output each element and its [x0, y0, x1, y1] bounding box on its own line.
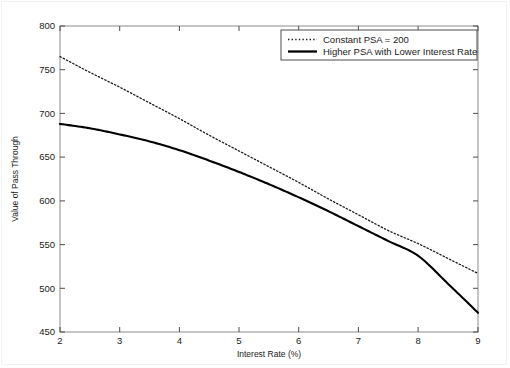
x-tick-label: 3 [117, 335, 122, 346]
y-tick-label: 500 [39, 283, 55, 294]
chart-figure: 450 500 550 600 650 700 750 800 2 3 4 5 … [0, 0, 510, 368]
legend-label-constant-psa: Constant PSA = 200 [323, 34, 409, 45]
chart-legend[interactable]: Constant PSA = 200 Higher PSA with Lower… [281, 30, 477, 60]
y-tick-label: 800 [39, 20, 55, 31]
y-axis-title: Value of Pass Through [10, 136, 20, 222]
x-tick-label: 6 [296, 335, 301, 346]
line-chart: 450 500 550 600 650 700 750 800 2 3 4 5 … [0, 0, 510, 368]
x-tick-label: 2 [57, 335, 62, 346]
y-tick-label: 450 [39, 326, 55, 337]
x-tick-label: 8 [415, 335, 420, 346]
y-tick-labels: 450 500 550 600 650 700 750 800 [39, 20, 55, 337]
y-tick-label: 550 [39, 239, 55, 250]
y-tick-label: 700 [39, 108, 55, 119]
y-tick-label: 600 [39, 195, 55, 206]
x-tick-labels: 2 3 4 5 6 7 8 9 [57, 335, 480, 346]
x-tick-label: 4 [177, 335, 182, 346]
x-tick-label: 7 [356, 335, 361, 346]
y-tick-label: 650 [39, 151, 55, 162]
x-tick-label: 5 [236, 335, 241, 346]
y-tick-label: 750 [39, 64, 55, 75]
plot-background [60, 26, 478, 332]
x-axis-title: Interest Rate (%) [237, 349, 301, 359]
x-tick-label: 9 [475, 335, 480, 346]
legend-label-higher-psa: Higher PSA with Lower Interest Rate [323, 46, 477, 57]
